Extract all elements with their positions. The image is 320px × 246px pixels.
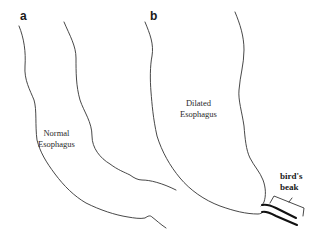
birds-beak-label-line1: bird's — [280, 171, 303, 182]
normal-esophagus-label-line1: Normal — [38, 128, 75, 139]
birds-beak-label: bird's beak — [280, 171, 303, 193]
normal-esophagus-right-wall — [64, 22, 176, 190]
normal-esophagus-label: Normal Esophagus — [38, 128, 75, 150]
panel-label-a: a — [20, 10, 27, 22]
diagram-drawing — [0, 0, 320, 246]
normal-esophagus-label-line2: Esophagus — [38, 139, 75, 150]
birds-beak-lower-line — [262, 212, 297, 225]
birds-beak-label-line2: beak — [280, 182, 303, 193]
dilated-esophagus-right-wall — [235, 12, 265, 206]
panel-label-b: b — [150, 10, 157, 22]
dilated-esophagus-label: Dilated Esophagus — [180, 98, 217, 120]
normal-esophagus-left-wall — [19, 26, 166, 228]
dilated-esophagus-label-line2: Esophagus — [180, 109, 217, 120]
esophagus-comparison-diagram: a b Normal Esophagus Dilated Esophagus b… — [0, 0, 320, 246]
dilated-esophagus-label-line1: Dilated — [180, 98, 217, 109]
